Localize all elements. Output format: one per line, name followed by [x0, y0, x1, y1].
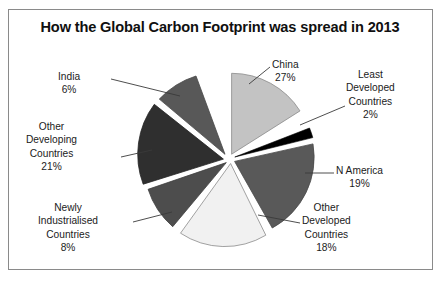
pie-label-newly-industrialised-countries-value: 8% [38, 241, 98, 254]
pie-label-newly-industrialised-countries: Newly Industrialised Countries 8% [38, 201, 98, 254]
leader-line-india [111, 79, 180, 96]
pie-chart-figure: How the Global Carbon Footprint was spre… [0, 0, 443, 281]
pie-label-india-name: India [58, 70, 80, 83]
pie-label-other-developing-countries-line-1: Other [26, 120, 77, 133]
pie-label-least-developed-countries-value: 2% [346, 108, 395, 121]
pie-label-india: India 6% [58, 70, 80, 97]
pie-label-n-america-name: N America [336, 164, 383, 177]
pie-label-least-developed-countries: Least Developed Countries 2% [346, 68, 395, 121]
pie-label-newly-industrialised-countries-line-2: Industrialised [38, 214, 98, 227]
pie-label-other-developing-countries-value: 21% [26, 160, 77, 173]
pie-label-other-developing-countries-line-2: Developing [26, 133, 77, 146]
pie-label-newly-industrialised-countries-line-1: Newly [38, 201, 98, 214]
pie-label-other-developed-countries-line-3: Countries [302, 228, 351, 241]
pie-label-least-developed-countries-line-1: Least [346, 68, 395, 81]
pie-label-other-developed-countries-value: 18% [302, 241, 351, 254]
pie-label-n-america: N America 19% [336, 164, 383, 191]
pie-label-china-name: China [272, 58, 299, 71]
pie-label-least-developed-countries-line-3: Countries [346, 95, 395, 108]
pie-label-other-developing-countries: Other Developing Countries 21% [26, 120, 77, 173]
pie-label-other-developed-countries-line-1: Other [302, 201, 351, 214]
pie-label-other-developing-countries-line-3: Countries [26, 147, 77, 160]
pie-label-india-value: 6% [58, 83, 80, 96]
pie-label-china: China 27% [272, 58, 299, 85]
pie-label-least-developed-countries-line-2: Developed [346, 81, 395, 94]
pie-label-newly-industrialised-countries-line-3: Countries [38, 228, 98, 241]
leader-line-least-developed-countries [300, 106, 345, 125]
pie-label-n-america-value: 19% [336, 177, 383, 190]
pie-label-other-developed-countries: Other Developed Countries 18% [302, 201, 351, 254]
pie-label-china-value: 27% [272, 71, 299, 84]
pie-label-other-developed-countries-line-2: Developed [302, 214, 351, 227]
